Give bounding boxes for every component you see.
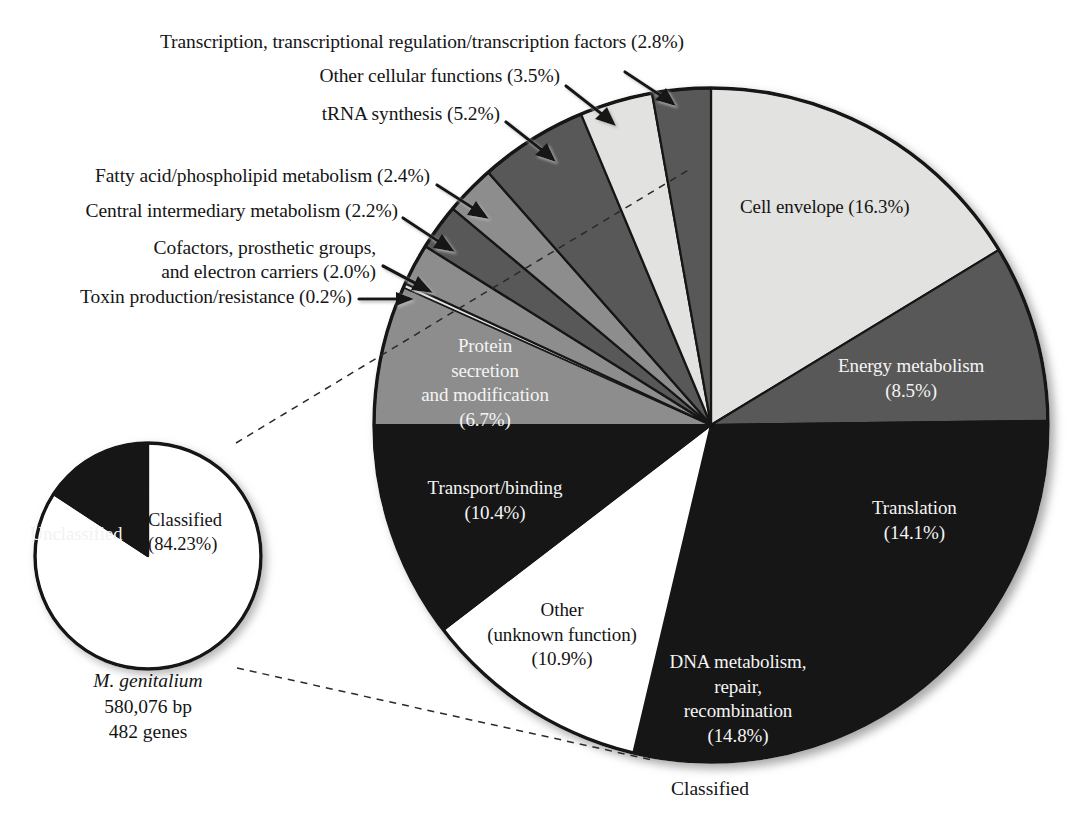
figure-canvas: Cell envelope (16.3%)Energy metabolism (… [0,0,1084,834]
slice-label-energy-metabolism: Energy metabolism (8.5%) [838,354,984,403]
slice-label-dna-line3: recombination [640,699,836,724]
mini-slice-label-classified: Classified (84.23%) [148,508,222,556]
slice-label-cell-envelope: Cell envelope (16.3%) [740,195,909,220]
slice-label-translation-line2: (14.1%) [872,521,957,546]
slice-label-protein-line4: (6.7%) [401,408,569,433]
slice-label-transport-binding: Transport/binding (10.4%) [400,476,590,525]
slice-label-dna-line2: repair, [640,675,836,700]
slice-label-translation: Translation (14.1%) [872,496,957,545]
slice-label-transport-line1: Transport/binding [400,476,590,501]
slice-label-other-line2: (unknown function) [457,623,667,648]
slice-label-protein-secretion: Protein secretion and modification (6.7%… [401,334,569,433]
caption-genes: 482 genes [48,719,248,745]
slice-label-other-unknown-function: Other (unknown function) (10.9%) [457,598,667,672]
main-pie-bottom-label: Classified [610,778,810,800]
mini-slice-label-classified-line2: (84.23%) [148,532,222,556]
slice-label-protein-line3: and modification [401,383,569,408]
slice-label-translation-line1: Translation [872,496,957,521]
slice-label-dna-metabolism: DNA metabolism, repair, recombination (1… [640,650,836,749]
callout-cofactors-line1: Cofactors, prosthetic groups, [62,236,376,261]
caption-basepairs: 580,076 bp [48,694,248,720]
slice-label-dna-line4: (14.8%) [640,724,836,749]
caption-species: M. genitalium [48,668,248,694]
callout-cofactors-line2: and electron carriers (2.0%) [62,260,376,285]
callout-fatty-acid-phospholipid-metabolism: Fatty acid/phospholipid metabolism (2.4%… [18,164,430,189]
slice-label-other-line3: (10.9%) [457,647,667,672]
slice-label-other-line1: Other [457,598,667,623]
slice-label-dna-line1: DNA metabolism, [640,650,836,675]
callout-trna-synthesis: tRNA synthesis (5.2%) [134,102,500,127]
slice-label-energy-metabolism-line1: Energy metabolism [838,354,984,379]
callout-transcription: Transcription, transcriptional regulatio… [64,30,684,55]
mini-slice-label-classified-line1: Classified [148,508,222,532]
mini-slice-label-unclassified: Unclassified [30,522,122,546]
callout-other-cellular-functions: Other cellular functions (3.5%) [94,64,560,89]
slice-label-protein-line2: secretion [401,359,569,384]
slice-label-energy-metabolism-line2: (8.5%) [838,379,984,404]
slice-label-protein-line1: Protein [401,334,569,359]
callout-toxin-production-resistance: Toxin production/resistance (0.2%) [14,285,352,310]
slice-label-transport-line2: (10.4%) [400,501,590,526]
callout-central-intermediary-metabolism: Central intermediary metabolism (2.2%) [26,199,398,224]
mini-pie-caption: M. genitalium 580,076 bp 482 genes [48,668,248,745]
